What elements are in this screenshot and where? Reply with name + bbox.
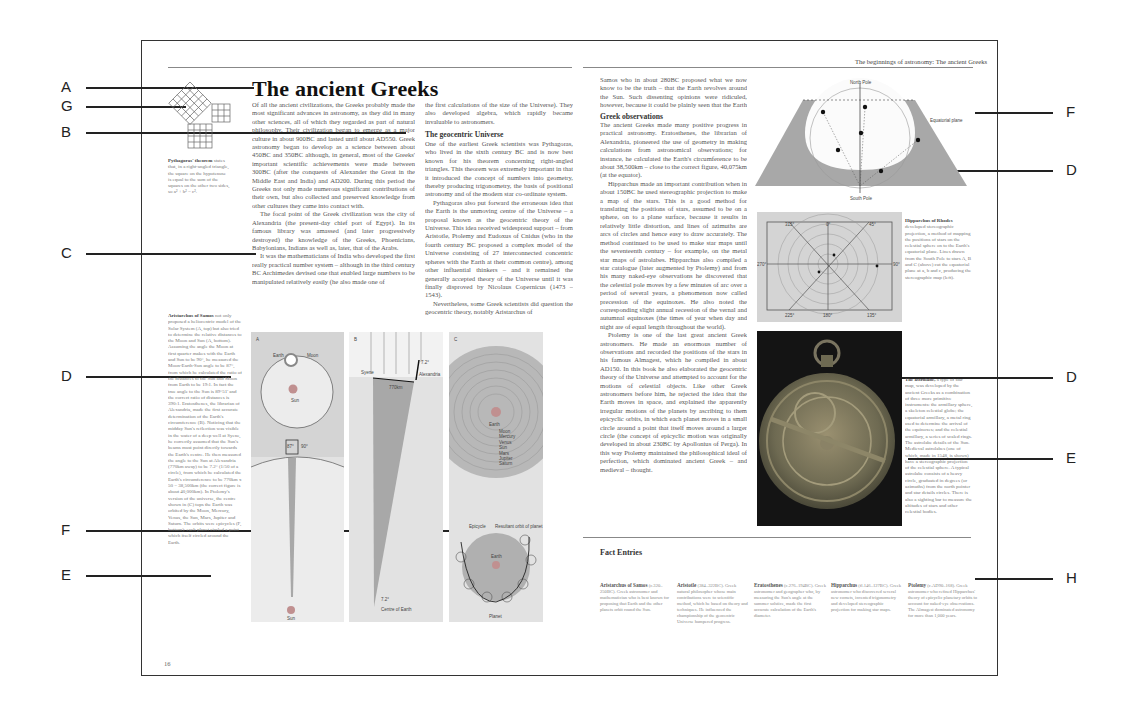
label-earth-epicycle: Earth xyxy=(491,554,502,559)
panel-c-letter: C xyxy=(454,337,457,342)
top-rule-left xyxy=(168,67,572,68)
aristarchus-caption: Aristarchus of Samos not only proposed a… xyxy=(168,313,242,653)
col2-paragraph-1: the first calculations of the size of th… xyxy=(425,101,573,131)
callout-label: E xyxy=(1066,449,1076,466)
label-7-2deg-bottom: 7.2° xyxy=(381,597,389,602)
stereographic-grid xyxy=(757,212,902,322)
diagram-panel-b: B Syene 7.2° Alexandria 770km 7.2° Centr… xyxy=(349,332,443,622)
diagram-panel-c: C Earth Moon Mercury Venus Sun Mars Jupi… xyxy=(449,332,543,622)
section-heading-observations: Greek observations xyxy=(600,112,663,121)
fact-entry: Aristarchus of Samos (c.320–250BC). Gree… xyxy=(600,582,672,613)
astrolabe-illustration xyxy=(757,331,902,526)
fact-entry: Aristotle (384–322BC). Greek natural phi… xyxy=(677,582,749,625)
fact-entry-text: (384–322BC). Greek natural philosopher w… xyxy=(677,583,748,624)
callout-label: F xyxy=(61,521,70,538)
intro-column: Of all the ancient civilizations, the Gr… xyxy=(252,101,415,327)
label-moon: Moon xyxy=(307,353,318,358)
tick-45: 45° xyxy=(869,222,876,227)
aristarchus-caption-body: not only proposed a heliocentric model o… xyxy=(168,313,242,545)
heliocentric-diagram xyxy=(251,332,344,622)
observations-paragraph-2: Hipparchus made an important contributio… xyxy=(600,180,747,331)
section-heading-geocentric: The geocentric Universe xyxy=(425,130,503,139)
pythagoras-caption-body: states that, in a right-angled triangle,… xyxy=(168,158,229,194)
label-planet: Planet xyxy=(489,614,502,619)
label-earth: Earth xyxy=(273,353,284,358)
page-number: 16 xyxy=(164,660,171,667)
panel-b-letter: B xyxy=(354,337,357,342)
fact-entry: Ptolemy (c.AD90–168). Greek astronomer w… xyxy=(908,582,980,619)
callout-label: C xyxy=(61,244,72,261)
fact-entry-name: Hipparchus xyxy=(831,582,857,588)
intro-paragraph-1: Of all the ancient civilizations, the Gr… xyxy=(252,101,415,209)
label-resultant-orbit: Resultant orbit of planet xyxy=(495,524,543,529)
fact-entries-rule xyxy=(583,537,971,538)
label-epicycle: Epicycle xyxy=(469,524,486,529)
label-sun: Sun xyxy=(291,398,299,403)
geocentric-section: One of the earliest Greek scientists was… xyxy=(425,140,573,327)
tick-315: 315° xyxy=(785,222,794,227)
tick-180: 180° xyxy=(823,313,832,318)
astrolabe-caption-body: a type of star map, was developed by the… xyxy=(905,377,972,514)
astrolabe-photo xyxy=(757,331,902,526)
running-head: The beginnings of astronomy: The ancient… xyxy=(855,58,987,65)
observations-paragraph-3: Ptolemy is one of the last great ancient… xyxy=(600,331,747,474)
right-paragraph-1: Samos who in about 280BC proposed what w… xyxy=(600,76,747,112)
tick-0: 0° xyxy=(826,222,830,227)
celestial-sphere-diagram xyxy=(755,78,990,193)
label-equatorial-plane: Equatorial plane xyxy=(930,118,963,123)
fact-entry: Eratosthenes (c.276–194BC). Greek astron… xyxy=(754,582,826,619)
hipparchus-caption-body: developed stereographic projection, a me… xyxy=(905,224,971,279)
label-alexandria: Alexandria xyxy=(419,372,440,377)
panel-a-letter: A xyxy=(256,337,259,342)
callout-label: D xyxy=(61,367,72,384)
label-7-2deg-top: 7.2° xyxy=(421,360,429,365)
callout-label: E xyxy=(61,566,71,583)
callout-line xyxy=(86,253,256,255)
top-rule-right xyxy=(583,67,973,68)
stereographic-map: 315° 0° 45° 270° 90° 225° 180° 135° xyxy=(757,212,902,322)
tick-270: 270° xyxy=(757,262,766,267)
astrolabe-caption-title: The astrolabe, xyxy=(905,377,935,382)
geocentric-paragraph-2: Pythagoras also put forward the erroneou… xyxy=(425,199,573,300)
tick-90: 90° xyxy=(893,262,900,267)
tick-225: 225° xyxy=(785,313,794,318)
label-north-pole: North Pole xyxy=(850,80,871,85)
fact-entry-name: Ptolemy xyxy=(908,582,926,588)
label-saturn: Saturn xyxy=(499,461,515,466)
tick-135: 135° xyxy=(867,313,876,318)
label-90deg: 90° xyxy=(301,444,308,449)
planet-list: Moon Mercury Venus Sun Mars Jupiter Satu… xyxy=(499,429,515,467)
hipparchus-caption: Hipparchus of Rhodes developed stereogra… xyxy=(905,218,973,281)
callout-line xyxy=(975,578,1053,580)
callout-label: D xyxy=(1066,161,1077,178)
pythagoras-diagram xyxy=(168,80,238,155)
diagram-panel-a: A Earth Moon Sun 87° 90° Sun xyxy=(251,332,344,622)
observations-section: The ancient Greeks made many positive pr… xyxy=(600,121,747,527)
callout-label: H xyxy=(1066,569,1077,586)
fact-entry-name: Aristotle xyxy=(677,582,696,588)
fact-entry-text: (c.AD90–168). Greek astronomer who refin… xyxy=(908,583,977,618)
page-title: The ancient Greeks xyxy=(252,76,439,102)
geocentric-diagram xyxy=(449,332,543,622)
geocentric-paragraph-1: One of the earliest Greek scientists was… xyxy=(425,140,573,199)
callout-label: A xyxy=(61,78,71,95)
pythagoras-caption: Pythagoras' theorem states that, in a ri… xyxy=(168,158,230,196)
label-770km: 770km xyxy=(389,385,403,390)
intro-paragraph-3: It was the mathematicians of India who d… xyxy=(252,252,415,286)
astrolabe-caption: The astrolabe, a type of star map, was d… xyxy=(905,377,973,527)
pythagoras-caption-title: Pythagoras' theorem xyxy=(168,158,212,163)
label-south-pole: South Pole xyxy=(850,196,872,201)
fact-entry: Hipparchus (fl.146–127BC). Greek astrono… xyxy=(831,582,903,613)
fact-entry-text: (c.276–194BC). Greek astronomer and geog… xyxy=(754,583,826,618)
callout-label: F xyxy=(1066,103,1075,120)
callout-label: D xyxy=(1066,368,1077,385)
hipparchus-caption-title: Hipparchus of Rhodes xyxy=(905,218,953,223)
label-earth-c: Earth xyxy=(489,422,500,427)
intro-paragraph-2: The focal point of the Greek civilizatio… xyxy=(252,210,415,252)
geocentric-paragraph-3: Nevertheless, some Greek scientists did … xyxy=(425,300,573,317)
label-syene: Syene xyxy=(361,370,374,375)
fact-entry-name: Eratosthenes xyxy=(754,582,783,588)
callout-label: G xyxy=(61,97,73,114)
label-87deg: 87° xyxy=(287,444,294,449)
label-sun-bottom: Sun xyxy=(287,616,295,621)
